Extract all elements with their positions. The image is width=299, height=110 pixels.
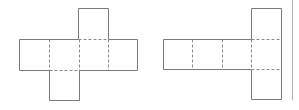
cube-net-left	[20, 9, 138, 101]
net-outline-right	[164, 9, 282, 100]
net-outline-left	[20, 9, 138, 101]
diagram-canvas	[0, 0, 299, 110]
cube-net-right	[164, 9, 282, 100]
